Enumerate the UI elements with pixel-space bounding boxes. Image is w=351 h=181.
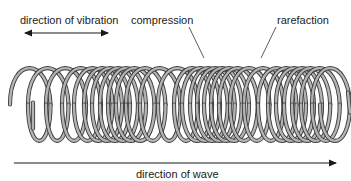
rarefaction-leader-line <box>261 27 276 58</box>
compression-leader-line <box>189 27 204 58</box>
spring-coil <box>10 68 350 141</box>
spring-diagram <box>0 0 351 181</box>
